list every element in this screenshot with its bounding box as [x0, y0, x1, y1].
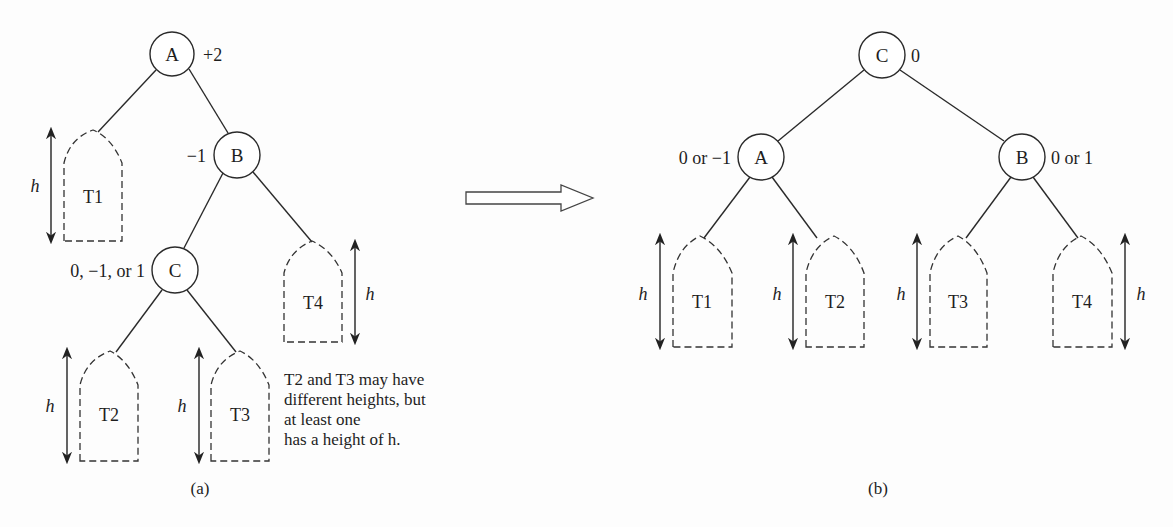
subtree-t4: T4 h: [284, 241, 375, 342]
node-b: B 0 or 1: [999, 134, 1093, 180]
edge-a-to-t1: [704, 177, 750, 238]
caption-b: (b): [868, 479, 888, 498]
node-a: A 0 or −1: [679, 134, 784, 180]
subtree-t1: T1 h: [31, 130, 123, 241]
caption-a: (a): [191, 479, 210, 498]
panel-a: A +2 B −1 C 0, −1, or 1 T1 h: [31, 32, 427, 498]
height-label: h: [366, 284, 375, 304]
edge-b-to-t3: [966, 177, 1011, 238]
balance-factor: −1: [187, 146, 206, 166]
edge-c-to-t3: [187, 290, 236, 352]
avl-double-rotation-figure: A +2 B −1 C 0, −1, or 1 T1 h: [0, 0, 1173, 527]
note-line: at least one: [284, 410, 360, 429]
node-label: B: [231, 145, 244, 166]
panel-b: C 0 A 0 or −1 B 0 or 1 T1 h: [639, 32, 1146, 498]
node-label: C: [169, 260, 182, 281]
node-label: C: [876, 45, 889, 66]
height-note: T2 and T3 may have different heights, bu…: [284, 370, 426, 449]
subtree-label: T2: [825, 292, 845, 312]
subtree-label: T4: [303, 293, 323, 313]
subtree-label: T3: [948, 292, 968, 312]
balance-factor: 0 or −1: [679, 148, 731, 168]
node-label: A: [754, 147, 768, 168]
node-b: B −1: [187, 132, 260, 178]
edge-b-to-t4: [253, 172, 312, 242]
note-line: T2 and T3 may have: [284, 370, 424, 389]
edge-a-to-b: [189, 69, 228, 133]
note-line: has a height of h.: [284, 430, 401, 449]
height-label: h: [897, 284, 906, 304]
subtree-t2: T2 h: [46, 351, 139, 461]
subtree-t3: T3 h: [178, 351, 270, 461]
edge-c-to-b: [900, 70, 1004, 141]
balance-factor: +2: [203, 45, 222, 65]
height-label: h: [773, 284, 782, 304]
height-label: h: [46, 396, 55, 416]
node-a: A +2: [150, 32, 222, 76]
balance-factor: 0, −1, or 1: [70, 261, 145, 281]
subtree-t3: T3 h: [897, 236, 988, 347]
edge-b-to-t4: [1033, 177, 1078, 238]
subtree-label: T1: [692, 292, 712, 312]
subtree-label: T3: [230, 405, 250, 425]
height-label: h: [1137, 284, 1146, 304]
edge-c-to-a: [778, 70, 864, 141]
subtree-t4: T4 h: [1053, 236, 1146, 347]
height-label: h: [639, 284, 648, 304]
node-c: C 0: [859, 32, 920, 78]
note-line: different heights, but: [284, 390, 426, 409]
edge-a-to-t1: [98, 70, 156, 132]
balance-factor: 0: [911, 46, 920, 66]
subtree-t2: T2 h: [773, 236, 865, 347]
edge-a-to-t2: [772, 177, 817, 238]
subtree-label: T4: [1072, 292, 1092, 312]
node-label: A: [165, 44, 179, 65]
subtree-label: T1: [83, 187, 103, 207]
edge-c-to-t2: [116, 290, 162, 352]
balance-factor: 0 or 1: [1051, 148, 1093, 168]
node-label: B: [1016, 147, 1029, 168]
diagram-canvas: A +2 B −1 C 0, −1, or 1 T1 h: [0, 0, 1173, 527]
transform-arrow-icon: [466, 185, 593, 211]
subtree-label: T2: [99, 405, 119, 425]
edge-b-to-c: [184, 173, 223, 248]
node-c: C 0, −1, or 1: [70, 247, 198, 293]
height-label: h: [31, 176, 40, 196]
height-label: h: [178, 396, 187, 416]
subtree-t1: T1 h: [639, 236, 733, 347]
